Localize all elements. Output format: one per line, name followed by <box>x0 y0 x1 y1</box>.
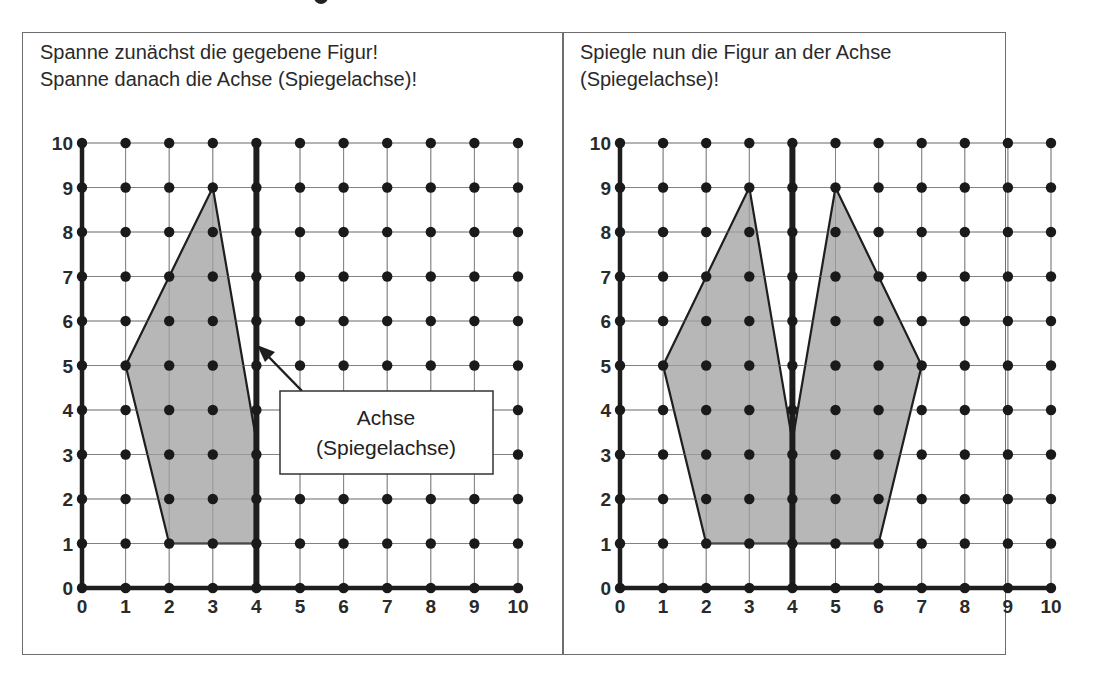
peg-dot <box>513 316 523 326</box>
y-tick-label: 8 <box>600 222 611 243</box>
peg-dot <box>787 449 797 459</box>
y-tick-label: 0 <box>600 578 611 599</box>
peg-dot <box>295 271 305 281</box>
peg-dot <box>701 405 711 415</box>
peg-dot <box>1046 227 1056 237</box>
peg-dot <box>251 583 261 593</box>
x-tick-label: 2 <box>164 596 175 617</box>
peg-dot <box>1046 494 1056 504</box>
peg-dot <box>787 271 797 281</box>
peg-dot <box>120 405 130 415</box>
peg-dot <box>1046 182 1056 192</box>
peg-dot <box>873 494 883 504</box>
y-tick-label: 5 <box>600 356 611 377</box>
peg-dot <box>701 494 711 504</box>
axis-callout: Achse (Spiegelachse) <box>257 345 493 474</box>
peg-dot <box>830 360 840 370</box>
peg-dot <box>513 227 523 237</box>
peg-dot <box>615 227 625 237</box>
peg-dot <box>426 271 436 281</box>
peg-dot <box>1003 583 1013 593</box>
peg-dot <box>658 538 668 548</box>
peg-dot <box>960 227 970 237</box>
x-tick-label: 8 <box>960 596 971 617</box>
peg-dot <box>469 494 479 504</box>
peg-dot <box>960 405 970 415</box>
peg-dot <box>744 316 754 326</box>
peg-dot <box>164 316 174 326</box>
peg-dot <box>164 360 174 370</box>
peg-dot <box>382 271 392 281</box>
peg-dot <box>251 138 261 148</box>
peg-dot <box>426 494 436 504</box>
peg-dot <box>426 316 436 326</box>
peg-dot <box>615 360 625 370</box>
peg-dot <box>917 227 927 237</box>
peg-dot <box>960 182 970 192</box>
x-tick-label: 10 <box>507 596 528 617</box>
peg-dot <box>120 138 130 148</box>
peg-dot <box>513 360 523 370</box>
peg-dot <box>1046 360 1056 370</box>
peg-dot <box>251 494 261 504</box>
peg-dot <box>469 360 479 370</box>
x-tick-label: 9 <box>469 596 480 617</box>
peg-dot <box>120 271 130 281</box>
peg-dot <box>615 316 625 326</box>
x-tick-label: 0 <box>77 596 88 617</box>
peg-dot <box>120 538 130 548</box>
peg-dot <box>77 271 87 281</box>
peg-dot <box>1046 583 1056 593</box>
x-tick-label: 1 <box>658 596 669 617</box>
peg-dot <box>744 271 754 281</box>
peg-dot <box>744 138 754 148</box>
geoboard-left: 001122334455667788991010 <box>52 133 529 617</box>
y-tick-label: 4 <box>62 400 73 421</box>
peg-dot <box>77 538 87 548</box>
x-tick-label: 10 <box>1040 596 1061 617</box>
peg-dot <box>208 538 218 548</box>
peg-dot <box>208 494 218 504</box>
y-tick-label: 10 <box>52 133 73 154</box>
peg-dot <box>513 271 523 281</box>
peg-dot <box>120 583 130 593</box>
peg-dot <box>787 538 797 548</box>
peg-dot <box>830 271 840 281</box>
peg-dot <box>338 360 348 370</box>
peg-dot <box>1003 227 1013 237</box>
y-tick-label: 9 <box>62 178 73 199</box>
peg-dot <box>1003 405 1013 415</box>
peg-dot <box>615 405 625 415</box>
peg-dot <box>426 227 436 237</box>
peg-dot <box>615 583 625 593</box>
peg-dot <box>164 494 174 504</box>
peg-dot <box>787 138 797 148</box>
peg-dot <box>469 271 479 281</box>
x-tick-label: 3 <box>744 596 755 617</box>
y-tick-label: 6 <box>62 311 73 332</box>
peg-dot <box>744 227 754 237</box>
peg-dot <box>513 182 523 192</box>
peg-dot <box>615 138 625 148</box>
peg-dot <box>164 271 174 281</box>
peg-dot <box>382 538 392 548</box>
peg-dot <box>208 316 218 326</box>
peg-dot <box>744 405 754 415</box>
peg-dot <box>615 538 625 548</box>
peg-dot <box>744 538 754 548</box>
y-tick-label: 0 <box>62 578 73 599</box>
y-tick-label: 10 <box>590 133 611 154</box>
peg-dot <box>469 182 479 192</box>
peg-dot <box>744 182 754 192</box>
peg-dot <box>701 538 711 548</box>
peg-dot <box>960 583 970 593</box>
peg-dot <box>120 316 130 326</box>
peg-dot <box>658 449 668 459</box>
peg-dot <box>426 538 436 548</box>
peg-dot <box>382 182 392 192</box>
peg-dot <box>120 182 130 192</box>
peg-dot <box>208 138 218 148</box>
y-tick-label: 2 <box>62 489 73 510</box>
x-tick-label: 3 <box>208 596 219 617</box>
peg-dot <box>873 360 883 370</box>
